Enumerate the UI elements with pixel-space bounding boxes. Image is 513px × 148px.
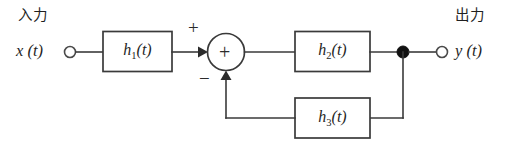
input-terminal-circle: [65, 47, 76, 58]
block-h2-label: h2(t): [295, 42, 370, 62]
input-signal-label: x (t): [16, 43, 43, 60]
output-signal-label: y (t): [455, 43, 482, 60]
output-jp-label: 出力: [455, 8, 484, 23]
block-h1-label: h1(t): [103, 42, 172, 62]
block-diagram: 入力 x (t) 出力 y (t) h1(t) h2(t) h3(t) + + …: [0, 0, 513, 148]
block-h1-arg: (t): [137, 41, 152, 58]
summing-junction-glyph: +: [219, 41, 230, 64]
block-h3-label: h3(t): [295, 109, 370, 129]
diagram-canvas: [0, 0, 513, 148]
arrow-up-into-sum-icon: [221, 71, 232, 81]
output-terminal-circle: [437, 47, 448, 58]
block-h2-arg: (t): [332, 41, 347, 58]
arrow-right-into-sum-icon: [198, 47, 208, 58]
sum-input-plus-sign: +: [188, 18, 199, 37]
sum-input-minus-sign: −: [199, 69, 210, 88]
block-h3-arg: (t): [332, 108, 347, 125]
input-jp-label: 入力: [18, 8, 47, 23]
